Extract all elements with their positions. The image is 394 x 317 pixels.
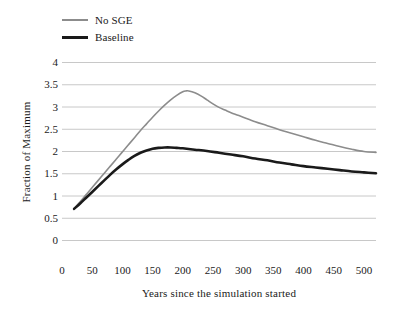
- legend-swatch-no-sge: [62, 19, 88, 21]
- x-axis-title: Years since the simulation started: [62, 287, 376, 299]
- legend-label-baseline: Baseline: [95, 31, 134, 43]
- x-axis-ticks: 050100150200250300350400450500: [0, 0, 394, 317]
- legend-item-baseline: Baseline: [62, 30, 134, 44]
- y-axis-title: Fraction of Maximum: [20, 67, 32, 237]
- chart-figure: 00.511.522.533.54 0501001502002503003504…: [0, 0, 394, 317]
- chart-legend: No SGE Baseline: [62, 13, 134, 44]
- legend-swatch-baseline: [62, 36, 88, 39]
- legend-item-no-sge: No SGE: [62, 13, 134, 27]
- x-tick-label: 500: [344, 265, 384, 276]
- legend-label-no-sge: No SGE: [95, 14, 133, 26]
